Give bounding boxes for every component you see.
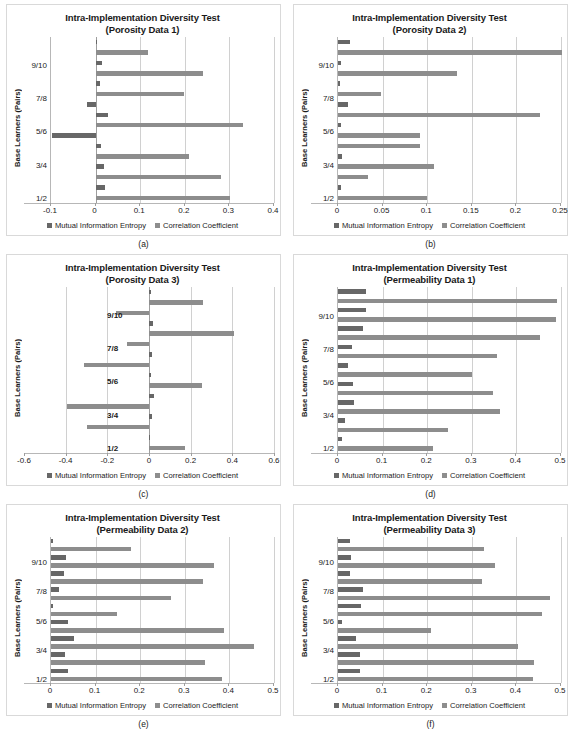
legend-item-correlation-coefficient[interactable]: Correlation Coefficient xyxy=(442,471,525,480)
bar[interactable] xyxy=(338,555,351,559)
bar[interactable] xyxy=(96,154,189,159)
bar[interactable] xyxy=(96,50,149,55)
bar[interactable] xyxy=(96,185,106,190)
bar[interactable] xyxy=(51,620,68,624)
bar[interactable] xyxy=(149,383,202,388)
bar[interactable] xyxy=(149,414,152,419)
bar[interactable] xyxy=(338,185,341,190)
bar[interactable] xyxy=(96,92,185,97)
bar[interactable] xyxy=(338,308,366,313)
bar[interactable] xyxy=(51,612,117,616)
bar[interactable] xyxy=(338,418,345,423)
bar[interactable] xyxy=(149,435,150,440)
bar[interactable] xyxy=(51,636,74,640)
bar[interactable] xyxy=(51,669,68,673)
bar[interactable] xyxy=(96,81,100,86)
bar[interactable] xyxy=(149,352,152,357)
bar[interactable] xyxy=(338,446,433,451)
legend-item-mutual-information-entropy[interactable]: Mutual Information Entropy xyxy=(47,471,146,480)
bar[interactable] xyxy=(84,363,149,368)
bar[interactable] xyxy=(51,555,66,559)
bar[interactable] xyxy=(338,571,350,575)
bar[interactable] xyxy=(51,596,171,600)
bar[interactable] xyxy=(149,373,151,378)
bar[interactable] xyxy=(96,113,108,118)
bar[interactable] xyxy=(51,539,53,543)
bar[interactable] xyxy=(338,363,348,368)
bar[interactable] xyxy=(51,547,131,551)
bar[interactable] xyxy=(149,446,185,451)
bar[interactable] xyxy=(338,652,360,656)
bar[interactable] xyxy=(51,628,224,632)
bar[interactable] xyxy=(338,579,482,583)
bar[interactable] xyxy=(338,620,342,624)
bar[interactable] xyxy=(338,596,550,600)
legend-item-correlation-coefficient[interactable]: Correlation Coefficient xyxy=(442,221,525,230)
bar[interactable] xyxy=(338,382,353,387)
bar[interactable] xyxy=(96,164,104,169)
bar[interactable] xyxy=(338,428,448,433)
bar[interactable] xyxy=(338,563,495,567)
legend-item-correlation-coefficient[interactable]: Correlation Coefficient xyxy=(155,701,238,710)
bar[interactable] xyxy=(52,133,96,138)
bar[interactable] xyxy=(338,587,363,591)
bar[interactable] xyxy=(338,604,361,608)
bar[interactable] xyxy=(338,164,434,169)
bar[interactable] xyxy=(338,660,534,664)
bar[interactable] xyxy=(338,326,363,331)
bar[interactable] xyxy=(96,175,222,180)
legend-item-correlation-coefficient[interactable]: Correlation Coefficient xyxy=(442,701,525,710)
bar[interactable] xyxy=(51,660,205,664)
bar[interactable] xyxy=(338,372,472,377)
bar[interactable] xyxy=(338,636,356,640)
bar[interactable] xyxy=(338,113,540,118)
bar[interactable] xyxy=(149,300,203,305)
bar[interactable] xyxy=(149,290,151,295)
bar[interactable] xyxy=(338,81,340,86)
bar[interactable] xyxy=(338,133,420,138)
bar[interactable] xyxy=(338,612,542,616)
bar[interactable] xyxy=(149,394,154,399)
bar[interactable] xyxy=(338,196,427,201)
bar[interactable] xyxy=(338,354,497,359)
bar[interactable] xyxy=(338,628,431,632)
legend-item-mutual-information-entropy[interactable]: Mutual Information Entropy xyxy=(334,701,433,710)
bar[interactable] xyxy=(338,144,420,149)
bar[interactable] xyxy=(96,40,98,45)
bar[interactable] xyxy=(51,677,222,681)
bar[interactable] xyxy=(51,571,64,575)
bar[interactable] xyxy=(338,71,457,76)
bar[interactable] xyxy=(96,144,101,149)
bar[interactable] xyxy=(338,175,368,180)
bar[interactable] xyxy=(338,677,533,681)
bar[interactable] xyxy=(149,321,153,326)
bar[interactable] xyxy=(338,61,341,66)
bar[interactable] xyxy=(338,317,556,322)
bar[interactable] xyxy=(338,345,352,350)
bar[interactable] xyxy=(51,644,254,648)
legend-item-mutual-information-entropy[interactable]: Mutual Information Entropy xyxy=(47,221,146,230)
bar[interactable] xyxy=(338,669,360,673)
bar[interactable] xyxy=(338,102,348,107)
bar[interactable] xyxy=(96,196,231,201)
bar[interactable] xyxy=(338,50,562,55)
bar[interactable] xyxy=(51,604,53,608)
bar[interactable] xyxy=(67,404,149,409)
bar[interactable] xyxy=(51,579,203,583)
bar[interactable] xyxy=(338,40,350,45)
bar[interactable] xyxy=(87,102,95,107)
bar[interactable] xyxy=(338,92,381,97)
bar[interactable] xyxy=(338,154,342,159)
bar[interactable] xyxy=(338,335,540,340)
bar[interactable] xyxy=(338,437,342,442)
legend-item-correlation-coefficient[interactable]: Correlation Coefficient xyxy=(155,471,238,480)
bar[interactable] xyxy=(96,123,244,128)
bar[interactable] xyxy=(127,342,150,347)
bar[interactable] xyxy=(338,123,341,128)
bar[interactable] xyxy=(87,425,149,430)
legend-item-mutual-information-entropy[interactable]: Mutual Information Entropy xyxy=(334,221,433,230)
bar[interactable] xyxy=(149,331,234,336)
bar[interactable] xyxy=(51,587,59,591)
bar[interactable] xyxy=(338,391,493,396)
bar[interactable] xyxy=(96,61,102,66)
